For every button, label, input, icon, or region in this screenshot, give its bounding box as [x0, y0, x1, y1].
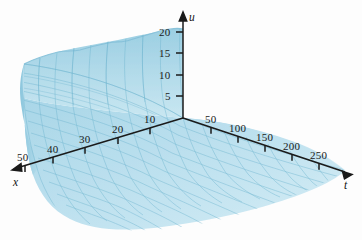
t-axis-tick-50: 50: [205, 114, 216, 125]
surface-plot-figure: 20 15 10 5 u 10 20 30 40 50 x 50 100 150…: [0, 0, 362, 240]
x-axis-tick-30: 30: [79, 134, 90, 145]
t-axis-tick-100: 100: [229, 123, 246, 134]
u-axis-tick-15: 15: [159, 48, 170, 59]
u-axis-tick-20: 20: [159, 27, 170, 38]
u-axis-tick-5: 5: [165, 91, 171, 102]
t-axis-label: t: [344, 180, 347, 192]
x-axis-tick-50: 50: [17, 152, 28, 163]
t-axis-tick-250: 250: [310, 150, 327, 161]
u-axis-label: u: [189, 12, 195, 24]
x-axis-tick-40: 40: [47, 144, 58, 155]
u-axis-tick-10: 10: [159, 70, 170, 81]
x-axis-label: x: [13, 177, 18, 189]
t-axis-tick-200: 200: [283, 141, 300, 152]
x-axis-tick-10: 10: [144, 114, 155, 125]
plot-canvas: [0, 0, 362, 240]
x-axis-tick-20: 20: [112, 124, 123, 135]
t-axis-tick-150: 150: [256, 132, 273, 143]
